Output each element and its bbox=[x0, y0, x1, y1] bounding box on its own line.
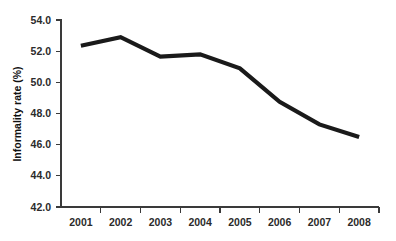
y-tick-label: 50.0 bbox=[31, 76, 52, 88]
y-tick-label: 46.0 bbox=[31, 138, 52, 150]
chart-background bbox=[0, 0, 396, 241]
x-tick-label: 2003 bbox=[149, 216, 173, 228]
y-tick-label: 48.0 bbox=[31, 107, 52, 119]
y-tick-label: 52.0 bbox=[31, 45, 52, 57]
x-tick-label: 2002 bbox=[109, 216, 133, 228]
y-tick-label: 44.0 bbox=[31, 169, 52, 181]
y-tick-label: 54.0 bbox=[31, 14, 52, 26]
line-chart: 42.0 44.0 46.0 48.0 50.0 52.0 54.0 2001 … bbox=[0, 0, 396, 241]
x-tick-label: 2006 bbox=[268, 216, 292, 228]
x-tick-label: 2007 bbox=[308, 216, 332, 228]
x-tick-label: 2005 bbox=[228, 216, 252, 228]
y-tick-label: 42.0 bbox=[31, 201, 52, 213]
y-axis-title: Informality rate (%) bbox=[11, 66, 23, 161]
x-tick-label: 2004 bbox=[188, 216, 212, 228]
chart-figure: 42.0 44.0 46.0 48.0 50.0 52.0 54.0 2001 … bbox=[0, 0, 396, 241]
x-tick-label: 2008 bbox=[347, 216, 371, 228]
x-tick-label: 2001 bbox=[69, 216, 93, 228]
